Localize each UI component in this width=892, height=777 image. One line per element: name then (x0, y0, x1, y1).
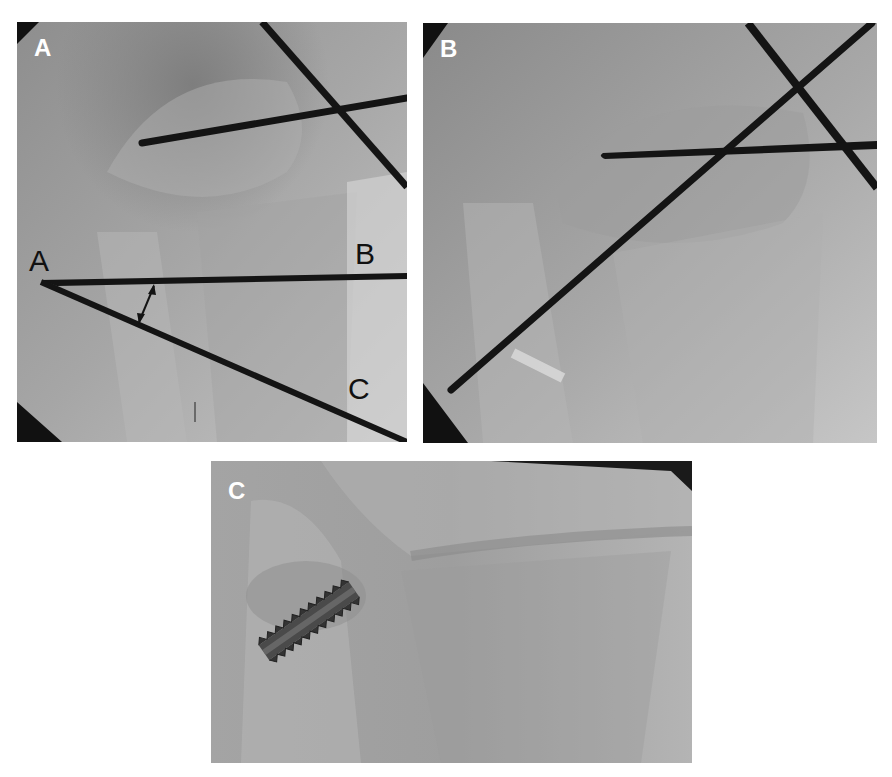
panel-b-image (423, 23, 877, 443)
panel-c-letter: C (228, 479, 245, 503)
panel-a-xray: A A B C (17, 22, 407, 442)
annotation-vertex-a: A (29, 246, 49, 276)
panel-b-letter: B (440, 37, 457, 61)
panel-b-xray: B (423, 23, 877, 443)
panel-a-letter: A (34, 36, 51, 60)
annotation-ray-b: B (355, 239, 375, 269)
panel-c-xray: C (211, 461, 692, 763)
panel-c-image (211, 461, 692, 763)
annotation-ray-c: C (348, 374, 370, 404)
